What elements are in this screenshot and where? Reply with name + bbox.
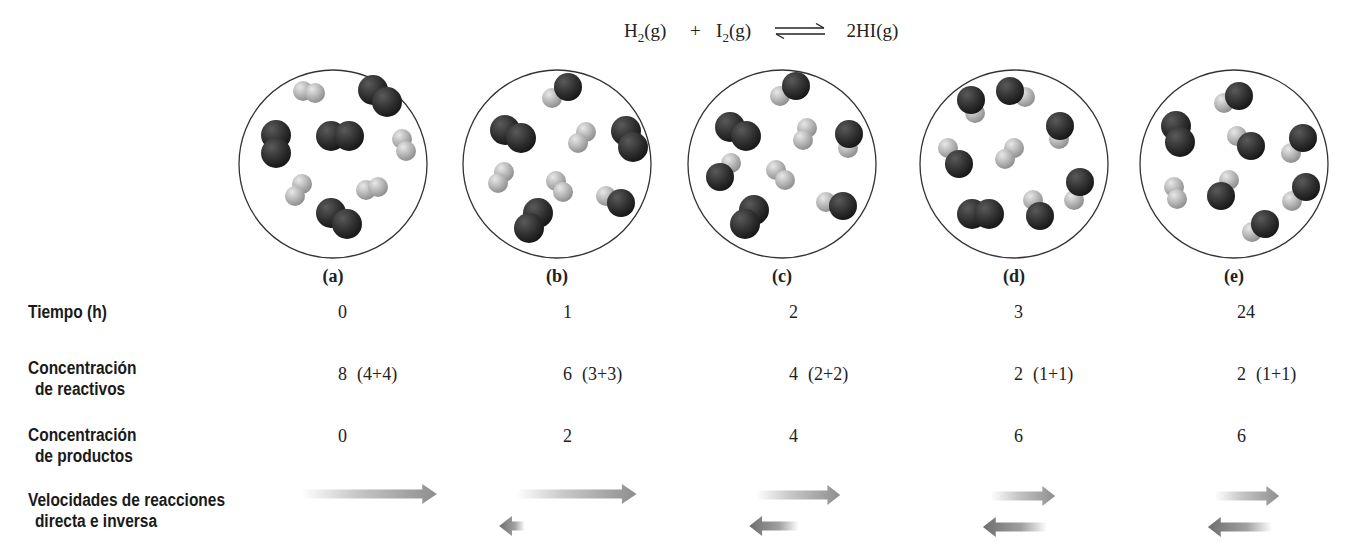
reaction-vessel [684, 66, 880, 262]
reactant-concentration: 2(1+1) [1237, 364, 1296, 385]
forward-rate-arrow-icon [510, 483, 644, 505]
reactant-concentration: 6(3+3) [563, 364, 622, 385]
h2-formula: H2(g) [624, 20, 666, 41]
panel-label: (c) [684, 266, 880, 287]
product-concentration: 6 [1237, 426, 1246, 447]
panel-e: (e) [1136, 66, 1332, 262]
reactant-concentration: 8(4+4) [338, 364, 397, 385]
panel-label: (b) [459, 266, 655, 287]
panel-d: (d) [916, 66, 1112, 262]
i2-molecule [316, 121, 364, 151]
panel-label: (e) [1136, 266, 1332, 287]
product-concentration: 2 [563, 426, 572, 447]
forward-rate-arrow-icon [295, 483, 445, 505]
panel-label: (a) [235, 266, 431, 287]
panel-label: (d) [916, 266, 1112, 287]
reactant-concentration: 2(1+1) [1014, 364, 1073, 385]
reaction-equation: H2(g) + I2(g) 2HI(g) [624, 20, 898, 46]
panel-a: (a) [235, 66, 431, 262]
panel-b: (b) [459, 66, 655, 262]
hi-formula: 2HI(g) [847, 20, 899, 41]
product-concentration: 0 [338, 426, 347, 447]
time-value: 3 [1014, 302, 1023, 323]
time-value: 24 [1237, 302, 1255, 323]
product-concentration: 4 [789, 426, 798, 447]
row-label-reactants: Concentración de reactivos [28, 358, 136, 400]
forward-rate-arrow-icon [1212, 485, 1284, 507]
equilibrium-arrow-icon [774, 22, 826, 44]
reaction-vessel [1136, 66, 1332, 262]
product-concentration: 6 [1014, 426, 1023, 447]
row-label-rates: Velocidades de reacciones directa e inve… [28, 490, 225, 532]
i2-molecule [957, 199, 1004, 229]
reactant-concentration: 4(2+2) [789, 364, 848, 385]
time-value: 0 [338, 302, 347, 323]
i2-molecule [261, 120, 291, 168]
reverse-rate-arrow-icon [498, 515, 526, 537]
plus-sign: + [690, 20, 701, 41]
time-value: 2 [789, 302, 798, 323]
panel-c: (c) [684, 66, 880, 262]
reaction-vessel [916, 66, 1112, 262]
forward-rate-arrow-icon [988, 485, 1060, 507]
reverse-rate-arrow-icon [1205, 516, 1275, 538]
row-label-time: Tiempo (h) [28, 302, 107, 323]
reaction-vessel [459, 66, 655, 262]
reaction-vessel [235, 66, 431, 262]
row-label-products: Concentración de productos [28, 425, 136, 467]
forward-rate-arrow-icon [752, 484, 846, 506]
time-value: 1 [563, 302, 572, 323]
i2-formula: I2(g) [716, 20, 751, 41]
reverse-rate-arrow-icon [980, 516, 1050, 538]
reverse-rate-arrow-icon [747, 515, 801, 537]
